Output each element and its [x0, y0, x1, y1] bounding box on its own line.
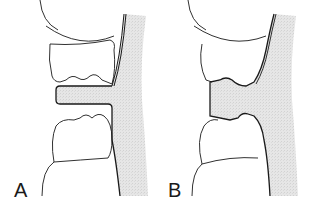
diagram-b	[158, 0, 316, 209]
diagram-a	[0, 0, 158, 209]
lower-tooth-a	[52, 114, 112, 162]
panel-label-a: A	[14, 180, 27, 200]
panel-label-b: B	[168, 180, 181, 200]
upper-tooth-a	[46, 26, 114, 41]
lower-tooth-b	[199, 120, 218, 164]
soft-tissue-b	[210, 14, 298, 196]
panel-b: B	[158, 0, 316, 209]
panel-a: A	[0, 0, 158, 209]
upper-tooth-b	[194, 26, 266, 41]
